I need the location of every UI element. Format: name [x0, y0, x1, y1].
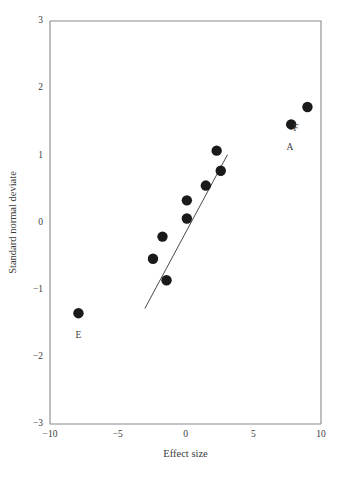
data-point-6: [201, 180, 211, 190]
x-axis-title: Effect size: [163, 448, 208, 459]
xtick-label-4: 10: [316, 429, 326, 439]
data-point-7: [216, 166, 226, 176]
data-point-8: [211, 145, 221, 155]
data-point-0: [73, 308, 83, 318]
plot-canvas: EAF −10−50510−3−2−10123 Effect sizeStand…: [0, 0, 342, 478]
xtick-label-1: −5: [113, 429, 123, 439]
ytick-label-2: −1: [33, 284, 43, 294]
xtick-label-3: 5: [251, 429, 256, 439]
data-point-2: [148, 254, 158, 264]
data-point-4: [182, 213, 192, 223]
data-point-5: [182, 195, 192, 205]
point-label-a: A: [286, 142, 293, 152]
ytick-label-1: −2: [33, 351, 43, 361]
data-point-10: [302, 102, 312, 112]
figure-background: [0, 0, 342, 478]
scatter-plot-figure: EAF −10−50510−3−2−10123 Effect sizeStand…: [0, 0, 342, 478]
ytick-label-3: 0: [38, 217, 43, 227]
xtick-label-0: −10: [43, 429, 58, 439]
data-point-1: [161, 275, 171, 285]
point-label-f: F: [293, 123, 298, 133]
xtick-label-2: 0: [183, 429, 188, 439]
point-label-e: E: [76, 330, 82, 340]
y-axis-title: Standard normal deviate: [7, 171, 18, 274]
ytick-label-4: 1: [38, 150, 43, 160]
ytick-label-6: 3: [38, 15, 43, 25]
ytick-label-5: 2: [38, 82, 43, 92]
data-point-3: [157, 231, 167, 241]
ytick-label-0: −3: [33, 418, 43, 428]
